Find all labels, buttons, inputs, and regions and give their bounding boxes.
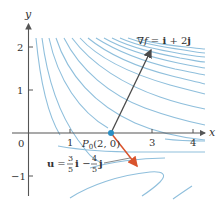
frac2-num: 4 [92,154,97,163]
x-tick-label-1: 1 [67,137,73,148]
frac2-den: 5 [92,165,97,174]
origin-label: 0 [18,138,24,149]
nabla-symbol: ∇ [137,35,144,46]
u-j: j [98,158,103,169]
gradient-j: j [186,35,191,46]
unit-vector-label: u = 3 5 i − 4 5 j [47,154,103,174]
p-coords: (2, 0) [93,138,120,149]
y-tick-label-neg1: −1 [11,171,26,182]
point-p0-label: P0(2, 0) [81,138,120,151]
frac1-den: 5 [68,165,73,174]
u-eq: = [54,158,69,169]
contour-curves [36,38,205,199]
frac1-num: 3 [68,154,73,163]
gradient-plus: + 2 [166,35,187,46]
point-p0 [108,130,114,136]
x-tick-label-4: 4 [190,137,196,148]
gradient-label: ∇f = i + 2j [137,35,191,46]
gradient-eq: = [148,35,163,46]
directional-derivative-figure: x y 0 1 3 4 2 1 −1 ∇f = i + 2j u = 3 5 i… [0,0,221,209]
x-axis-label: x [209,126,216,139]
y-tick-label-2: 2 [17,42,23,53]
x-tick-label-3: 3 [149,137,155,148]
y-tick-label-1: 1 [17,85,23,96]
y-axis-label: y [24,8,32,21]
